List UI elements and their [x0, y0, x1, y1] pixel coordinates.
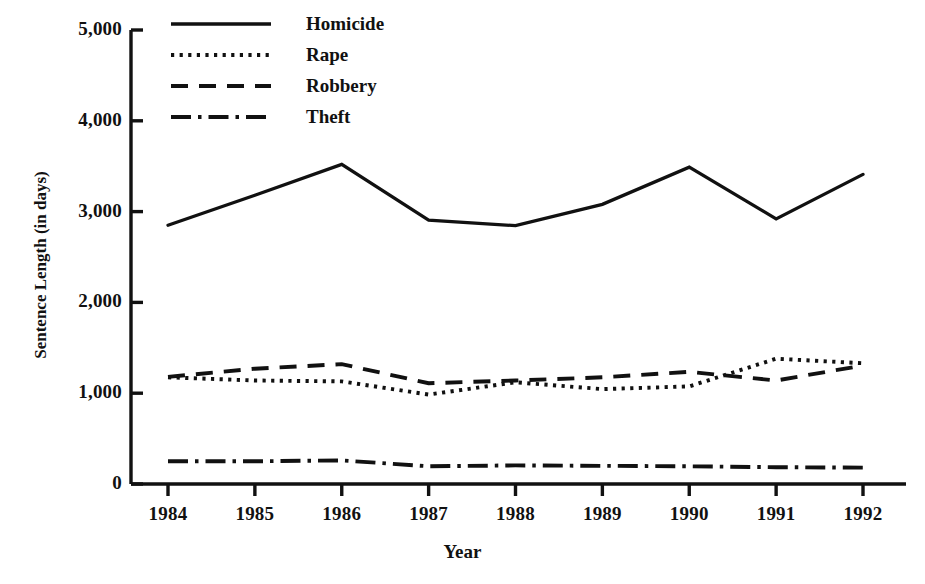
- series-line-rape: [168, 359, 863, 395]
- legend-label: Homicide: [306, 13, 384, 35]
- legend-item-rape: Rape: [170, 39, 410, 70]
- x-axis-ticks: [168, 484, 863, 496]
- y-axis-ticks: [131, 30, 143, 484]
- dotted-line-key: [170, 48, 272, 62]
- legend-label: Robbery: [306, 75, 377, 97]
- x-axis-title: Year: [0, 541, 925, 563]
- legend-label: Theft: [306, 106, 350, 128]
- x-axis-tick-label: 1986: [297, 503, 387, 525]
- y-axis-tick-label: 3,000: [0, 200, 122, 222]
- y-axis-tick-label: 5,000: [0, 18, 122, 40]
- y-axis-tick-label: 0: [0, 472, 122, 494]
- y-axis-tick-label: 2,000: [0, 290, 122, 312]
- y-axis-title: Sentence Length (in days): [31, 140, 51, 390]
- x-axis-tick-label: 1984: [123, 503, 213, 525]
- y-axis-tick-label: 1,000: [0, 381, 122, 403]
- solid-line-key: [170, 17, 272, 31]
- y-axis-tick-label: 4,000: [0, 109, 122, 131]
- dashed-line-key: [170, 79, 272, 93]
- plot-area: [0, 0, 925, 584]
- x-axis-tick-label: 1985: [210, 503, 300, 525]
- legend-label: Rape: [306, 44, 348, 66]
- x-axis-tick-label: 1992: [818, 503, 908, 525]
- legend-item-robbery: Robbery: [170, 70, 410, 101]
- series-line-theft: [168, 460, 863, 467]
- x-axis-tick-label: 1991: [731, 503, 821, 525]
- dash-dot-line-key: [170, 110, 272, 124]
- legend-item-theft: Theft: [170, 101, 410, 132]
- legend: HomicideRapeRobberyTheft: [170, 8, 410, 132]
- line-chart: 01,0002,0003,0004,0005,000 1984198519861…: [0, 0, 925, 584]
- x-axis-tick-label: 1987: [384, 503, 474, 525]
- x-axis-tick-label: 1990: [644, 503, 734, 525]
- data-series-layer: [168, 164, 863, 467]
- series-line-homicide: [168, 164, 863, 225]
- x-axis-tick-label: 1988: [471, 503, 561, 525]
- legend-item-homicide: Homicide: [170, 8, 410, 39]
- x-axis-tick-label: 1989: [557, 503, 647, 525]
